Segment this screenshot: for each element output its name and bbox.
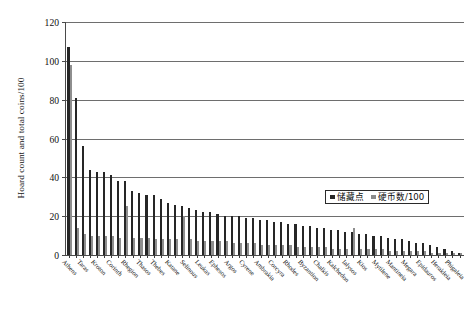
legend-label-hoards: 储藏点 [337, 193, 364, 202]
bar-group [385, 22, 392, 255]
bar-group [158, 22, 165, 255]
legend-label-coins: 硬币数/100 [378, 193, 424, 202]
legend-swatch-hoards [330, 195, 335, 200]
bar-group [130, 22, 137, 255]
bar-coins-per-100 [176, 239, 178, 255]
bar-coins-per-100 [240, 243, 242, 255]
bar-coins-per-100 [204, 241, 206, 255]
bar-series-container [66, 22, 464, 255]
bar-group [399, 22, 406, 255]
bar-coins-per-100 [275, 245, 277, 255]
bar-group [137, 22, 144, 255]
bar-group [87, 22, 94, 255]
y-axis-tick-label: 120 [45, 17, 59, 28]
bar-coins-per-100 [318, 247, 320, 255]
chart-figure: Hoard count and total coins/100 02040608… [0, 0, 476, 318]
y-axis-title: Hoard count and total coins/100 [16, 28, 30, 248]
bar-group [73, 22, 80, 255]
bar-coins-per-100 [169, 239, 171, 255]
y-axis-tick-label: 80 [49, 94, 59, 105]
bar-coins-per-100 [254, 243, 256, 255]
bar-group [357, 22, 364, 255]
y-axis-tick-label: 0 [54, 250, 59, 261]
bar-coins-per-100 [155, 239, 157, 255]
bar-group [172, 22, 179, 255]
bar-group [151, 22, 158, 255]
bar-group [378, 22, 385, 255]
bar-group [307, 22, 314, 255]
legend-swatch-coins [371, 195, 376, 200]
bar-group [243, 22, 250, 255]
bar-coins-per-100 [311, 247, 313, 255]
bar-group [272, 22, 279, 255]
bar-group [279, 22, 286, 255]
bar-coins-per-100 [304, 247, 306, 255]
bar-coins-per-100 [268, 245, 270, 255]
bar-coins-per-100 [126, 206, 128, 255]
bar-group [321, 22, 328, 255]
bar-group [187, 22, 194, 255]
bar-coins-per-100 [219, 241, 221, 255]
bar-group [293, 22, 300, 255]
bar-group [236, 22, 243, 255]
bar-coins-per-100 [84, 234, 86, 255]
bar-group [215, 22, 222, 255]
bar-group [421, 22, 428, 255]
y-axis-tick-label: 60 [49, 133, 59, 144]
bar-group [343, 22, 350, 255]
bar-group [194, 22, 201, 255]
bar-group [265, 22, 272, 255]
bar-group [328, 22, 335, 255]
bar-coins-per-100 [282, 245, 284, 255]
x-axis-labels: AthensTarasKrotonCorinthRhegionThasosThe… [65, 258, 463, 318]
bar-coins-per-100 [140, 238, 142, 255]
bar-coins-per-100 [133, 238, 135, 255]
bar-group [101, 22, 108, 255]
bar-group [456, 22, 463, 255]
bar-coins-per-100 [353, 228, 355, 255]
y-axis-tick-label: 20 [49, 211, 59, 222]
bar-group [300, 22, 307, 255]
bar-coins-per-100 [183, 216, 185, 255]
bar-group [371, 22, 378, 255]
y-axis-tick-label: 40 [49, 172, 59, 183]
bar-group [109, 22, 116, 255]
bar-group [208, 22, 215, 255]
legend-item-coins: 硬币数/100 [371, 193, 424, 202]
bar-group [66, 22, 73, 255]
bar-coins-per-100 [289, 245, 291, 255]
legend-item-hoards: 储藏点 [330, 193, 364, 202]
bar-coins-per-100 [162, 239, 164, 255]
bar-group [250, 22, 257, 255]
bar-group [165, 22, 172, 255]
chart-legend: 储藏点 硬币数/100 [325, 190, 429, 204]
bar-coins-per-100 [226, 241, 228, 255]
bar-group [407, 22, 414, 255]
bar-group [201, 22, 208, 255]
bar-coins-per-100 [112, 236, 114, 255]
bar-coins-per-100 [297, 247, 299, 255]
bar-group [286, 22, 293, 255]
bar-group [180, 22, 187, 255]
bar-group [364, 22, 371, 255]
bar-group [428, 22, 435, 255]
bar-coins-per-100 [70, 65, 72, 255]
bar-coins-per-100 [247, 243, 249, 255]
bar-group [350, 22, 357, 255]
bar-group [442, 22, 449, 255]
bar-group [229, 22, 236, 255]
plot-area: 020406080100120 [65, 22, 464, 256]
y-axis-tick-label: 100 [45, 55, 59, 66]
bar-coins-per-100 [91, 236, 93, 255]
bar-group [123, 22, 130, 255]
bar-coins-per-100 [190, 239, 192, 255]
bar-group [80, 22, 87, 255]
bar-group [258, 22, 265, 255]
bar-coins-per-100 [211, 241, 213, 255]
bar-group [392, 22, 399, 255]
bar-coins-per-100 [325, 247, 327, 255]
bar-coins-per-100 [77, 228, 79, 255]
bar-coins-per-100 [148, 238, 150, 255]
bar-group [414, 22, 421, 255]
bar-coins-per-100 [98, 236, 100, 255]
